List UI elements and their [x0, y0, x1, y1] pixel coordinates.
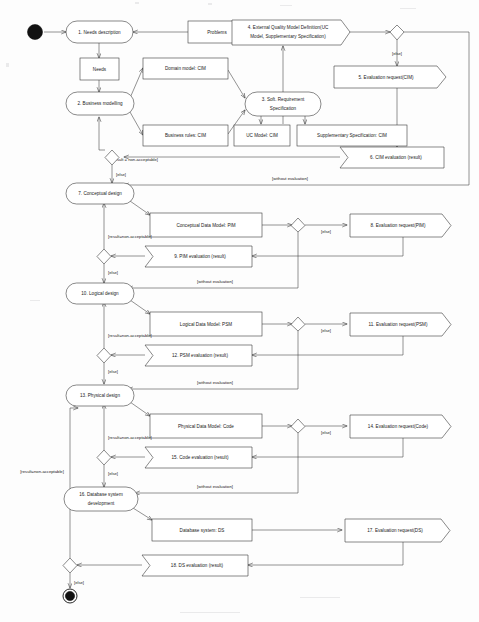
decision-pim-result[interactable] [97, 249, 111, 264]
decision-psm-result[interactable] [97, 348, 111, 363]
object-domain-model-cim[interactable]: Domain model: CIM [143, 58, 228, 79]
action-logical-design[interactable]: 10. Logical design [66, 283, 134, 304]
final-node [63, 589, 77, 603]
send-signal-label: 5. Evaluation request(CIM) [358, 75, 414, 80]
object-label: Conceptual Data Model: PIM [176, 223, 235, 228]
guard-label: [result=non-acceptable] [20, 469, 64, 474]
send-signal-evaluation-request-psm[interactable]: 11. Evaluation request(PSM) [350, 313, 451, 336]
send-signal-label-line2: Model, Supplementary Specification) [250, 34, 326, 39]
send-signal-label-line1: 4. External Quality Model Definition(UC [248, 25, 329, 30]
action-label-line2: Specification [270, 106, 297, 111]
decision-ds-result[interactable] [63, 558, 77, 573]
action-conceptual-design[interactable]: 7. Conceptual design [66, 183, 134, 204]
action-label-line1: 3. Soft. Requirement [262, 97, 305, 102]
object-supplementary-specification-cim[interactable]: Supplementary Specification: CIM [297, 125, 407, 146]
guard-label: [result=non-acceptable] [108, 234, 152, 239]
send-signal-label: 8. Evaluation request(PIM) [371, 223, 426, 228]
receive-signal-label: 12. PSM evaluation (result) [172, 353, 228, 358]
action-label-line2: development [88, 501, 115, 506]
decision-code-evaluation[interactable] [291, 419, 305, 433]
object-conceptual-data-model-pim[interactable]: Conceptual Data Model: PIM [150, 213, 262, 237]
send-signal-evaluation-request-cim[interactable]: 5. Evaluation request(CIM) [334, 66, 446, 88]
object-needs[interactable]: Needs [80, 58, 119, 80]
guard-label: [without evaluation] [197, 380, 233, 385]
object-label: Physical Data Model: Code [178, 424, 234, 429]
guard-label: [without evaluation] [197, 484, 233, 489]
guard-label: [else] [108, 270, 118, 275]
send-signal-evaluation-request-ds[interactable]: 17. Evaluation request(DS) [345, 519, 450, 542]
diagram-svg: 1. Needs description Problems 4. Externa… [0, 0, 479, 622]
action-soft-requirement-specification[interactable]: 3. Soft. Requirement Specification [245, 92, 321, 116]
object-business-rules-cim[interactable]: Business rules: CIM [143, 125, 228, 146]
activity-diagram-canvas: 1. Needs description Problems 4. Externa… [0, 0, 479, 622]
guard-label: [else] [74, 580, 84, 585]
object-database-system-ds[interactable]: Database system: DS [152, 519, 252, 541]
action-label: 1. Needs description [78, 30, 121, 35]
send-signal-external-quality-model-definition[interactable]: 4. External Quality Model Definition(UC … [232, 20, 350, 45]
send-signal-label: 11. Evaluation request(PSM) [369, 322, 428, 327]
guard-label: [without evaluation] [272, 176, 308, 181]
action-needs-description[interactable]: 1. Needs description [66, 21, 133, 43]
guard-label: [else] [116, 172, 126, 177]
guard-label: [without evaluation] [197, 279, 233, 284]
decision-cim-evaluation[interactable] [390, 25, 404, 40]
object-label: Business rules: CIM [165, 133, 206, 138]
guard-label: [else] [392, 51, 402, 56]
action-label: 13. Physical design [80, 393, 120, 398]
decision-pim-evaluation[interactable] [291, 218, 305, 232]
guard-label: [else] [321, 229, 331, 234]
receive-signal-ds-evaluation[interactable]: 18. DS evaluation (result) [142, 555, 248, 576]
receive-signal-pim-evaluation[interactable]: 9. PIM evaluation (result) [145, 246, 252, 267]
guard-label: [result=non-acceptable] [108, 435, 152, 440]
object-label: Logical Data Model: PSM [180, 322, 232, 327]
object-label: Database system: DS [180, 528, 225, 533]
object-physical-data-model-code[interactable]: Physical Data Model: Code [150, 414, 262, 438]
action-label-line1: 16. Database system [79, 492, 123, 497]
decision-cim-result[interactable] [105, 150, 119, 165]
action-business-modelling[interactable]: 2. Business modelling [66, 92, 134, 115]
decision-code-result[interactable] [97, 450, 111, 465]
receive-signal-label: 9. PIM evaluation (result) [174, 254, 226, 259]
object-label: Needs [93, 67, 107, 72]
receive-signal-cim-evaluation[interactable]: 6. CIM evaluation (result) [340, 147, 444, 168]
object-label: UC Model: CIM [246, 133, 278, 138]
receive-signal-code-evaluation[interactable]: 15. Code evaluation (result) [145, 447, 252, 468]
send-signal-label: 14. Evaluation request(Code) [368, 424, 429, 429]
guard-label: [result=non-acceptable] [108, 333, 152, 338]
guard-label: [else] [321, 328, 331, 333]
send-signal-label: 17. Evaluation request(DS) [367, 528, 423, 533]
object-logical-data-model-psm[interactable]: Logical Data Model: PSM [150, 312, 262, 336]
guard-label: [else] [321, 430, 331, 435]
decision-psm-evaluation[interactable] [291, 317, 305, 331]
action-label: 7. Conceptual design [78, 191, 122, 196]
send-signal-evaluation-request-pim[interactable]: 8. Evaluation request(PIM) [350, 214, 451, 237]
send-signal-evaluation-request-code[interactable]: 14. Evaluation request(Code) [350, 415, 451, 438]
receive-signal-psm-evaluation[interactable]: 12. PSM evaluation (result) [145, 345, 252, 366]
object-label: Supplementary Specification: CIM [317, 133, 387, 138]
object-uc-model-cim[interactable]: UC Model: CIM [234, 125, 290, 146]
action-physical-design[interactable]: 13. Physical design [66, 385, 134, 406]
receive-signal-label: 15. Code evaluation (result) [172, 455, 229, 460]
action-label: 2. Business modelling [77, 101, 123, 106]
action-database-system-development[interactable]: 16. Database system development [64, 487, 138, 511]
object-label: Problems [207, 30, 227, 35]
guard-label: [else] [108, 471, 118, 476]
receive-signal-label: 18. DS evaluation (result) [171, 563, 224, 568]
guard-label: [else] [108, 369, 118, 374]
initial-node [28, 25, 43, 40]
receive-signal-label: 6. CIM evaluation (result) [370, 155, 422, 160]
action-label: 10. Logical design [81, 291, 119, 296]
object-label: Domain model: CIM [165, 66, 206, 71]
